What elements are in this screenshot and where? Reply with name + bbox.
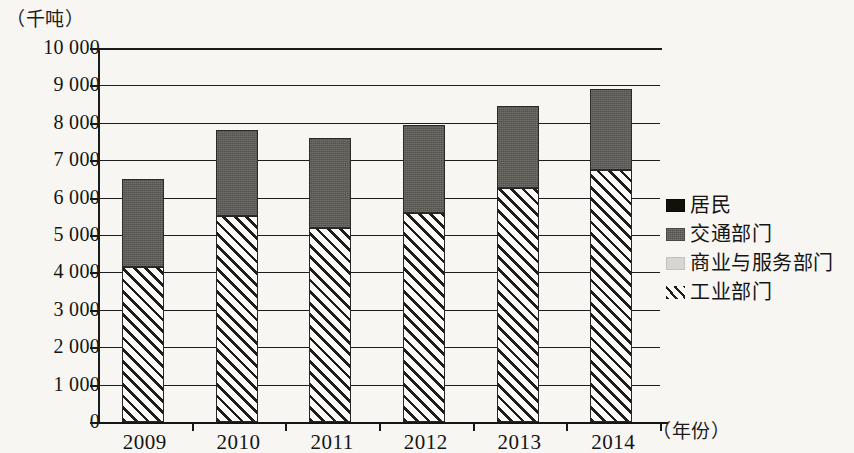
bar-segment-industry — [403, 213, 445, 422]
x-tick-label: 2011 — [285, 430, 379, 453]
x-tick-label: 2014 — [566, 430, 660, 453]
y-tick-label: 9 000 — [8, 74, 100, 94]
x-tick-label: 2009 — [98, 430, 192, 453]
y-tickmark — [90, 422, 100, 424]
bars-layer — [98, 48, 660, 422]
y-tick-label: 4 000 — [8, 261, 100, 281]
legend-item: 商业与服务部门 — [666, 249, 852, 277]
x-tick-label: 2013 — [473, 430, 567, 453]
legend-label: 工业部门 — [690, 281, 772, 303]
legend-swatch-icon — [666, 228, 685, 241]
legend-item: 交通部门 — [666, 220, 852, 248]
bar-stack — [309, 48, 351, 422]
y-tick-label: 6 000 — [8, 187, 100, 207]
bar-segment-transport — [497, 106, 539, 188]
x-axis-unit-label: （年份） — [652, 416, 730, 443]
legend-item: 工业部门 — [666, 278, 852, 306]
x-tick-label: 2010 — [192, 430, 286, 453]
x-tick-label: 2012 — [379, 430, 473, 453]
y-tick-label: 2 000 — [8, 336, 100, 356]
x-tickmark — [660, 422, 662, 431]
legend-label: 交通部门 — [690, 223, 772, 245]
bar-segment-transport — [403, 125, 445, 213]
legend-item: 居民 — [666, 191, 852, 219]
bar-stack — [590, 48, 632, 422]
bar-stack — [216, 48, 258, 422]
bar-segment-industry — [122, 267, 164, 422]
legend-label: 居民 — [690, 194, 731, 216]
legend-label: 商业与服务部门 — [690, 252, 834, 274]
bar-stack — [122, 48, 164, 422]
bar-stack — [497, 48, 539, 422]
y-tick-label: 3 000 — [8, 299, 100, 319]
y-axis-tick-labels: 10 0009 0008 0007 0006 0005 0004 0003 00… — [0, 0, 100, 453]
bar-segment-transport — [216, 130, 258, 216]
legend-swatch-icon — [666, 199, 685, 212]
bar-segment-industry — [309, 228, 351, 422]
legend-swatch-icon — [666, 257, 685, 270]
y-tick-label: 7 000 — [8, 149, 100, 169]
legend-swatch-icon — [666, 286, 685, 299]
y-tick-label: 8 000 — [8, 112, 100, 132]
bar-segment-industry — [590, 170, 632, 422]
bar-segment-industry — [497, 188, 539, 422]
x-axis-category-labels: 200920102011201220132014 — [98, 430, 660, 453]
bar-segment-industry — [216, 216, 258, 422]
stacked-bar-chart: （千吨） （年份） 10 0009 0008 0007 0006 0005 00… — [0, 0, 854, 453]
bar-segment-transport — [122, 179, 164, 267]
bar-segment-transport — [309, 138, 351, 228]
bar-segment-transport — [590, 89, 632, 169]
y-tick-label: 5 000 — [8, 224, 100, 244]
y-tick-label: 10 000 — [8, 37, 100, 57]
chart-legend: 居民交通部门商业与服务部门工业部门 — [666, 191, 852, 307]
y-tick-label: 0 — [8, 411, 100, 431]
bar-stack — [403, 48, 445, 422]
y-tick-label: 1 000 — [8, 374, 100, 394]
